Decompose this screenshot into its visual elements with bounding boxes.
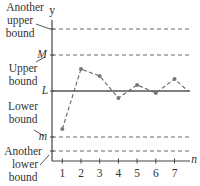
upper-line1: Upper (4, 62, 42, 75)
data-point (98, 74, 102, 78)
m-symbol: m (39, 130, 47, 142)
another-lower-line3: bound (2, 171, 44, 184)
another-lower-line1: Another (2, 145, 44, 158)
sequence-series (60, 67, 188, 131)
upper-bound-label: Upper bound (4, 62, 42, 88)
x-axis-label: n (189, 153, 199, 166)
data-point (173, 77, 177, 81)
x-tick-label: 5 (131, 167, 143, 180)
L-label: L (40, 84, 50, 97)
m-label: m (38, 130, 48, 143)
reference-lines (50, 29, 190, 151)
lower-bound-label: Lower bound (4, 100, 42, 126)
another-upper-bound-label: Another upper bound (2, 1, 48, 40)
y-axis-text: y (49, 4, 55, 16)
axes (34, 20, 190, 165)
x-tick-label: 6 (150, 167, 162, 180)
x-tick-label: 7 (169, 167, 181, 180)
data-point (116, 96, 120, 100)
data-point (135, 83, 139, 87)
data-point (60, 127, 64, 131)
M-symbol: M (37, 48, 47, 60)
x-tick-label: 1 (56, 167, 68, 180)
another-upper-line3: bound (2, 27, 48, 40)
x-tick-label: 4 (112, 167, 124, 180)
upper-line2: bound (4, 75, 42, 88)
x-tick-label: 2 (75, 167, 87, 180)
another-lower-line2: lower (2, 158, 44, 171)
lower-line1: Lower (4, 100, 42, 113)
another-upper-line1: Another (2, 1, 48, 14)
another-lower-bound-label: Another lower bound (2, 145, 44, 184)
lower-line2: bound (4, 113, 42, 126)
another-upper-line2: upper (2, 14, 48, 27)
M-label: M (36, 48, 48, 61)
L-symbol: L (42, 84, 48, 96)
sequence-line (62, 69, 188, 129)
x-tick-label: 3 (94, 167, 106, 180)
data-point (154, 91, 158, 95)
data-point (79, 67, 83, 71)
x-axis-text: n (191, 153, 197, 165)
